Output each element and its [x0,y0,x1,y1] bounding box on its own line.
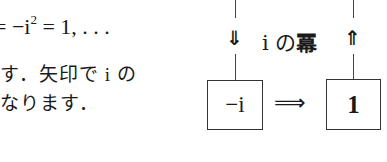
body-text-line-3: なります． [0,88,99,115]
powers-of-i-label: i の冪 [262,26,317,56]
minus-i: −i [12,14,31,39]
equation-line: = −i2 = 1, . . . [0,14,110,40]
box-one: 1 [326,79,381,130]
right-connector-bottom [353,54,354,80]
implies-arrow-icon: ⟹ [274,92,306,114]
label-power: 冪 [296,31,317,55]
left-connector-top [235,0,236,18]
equals-fragment: = [0,14,12,39]
label-no: の [275,31,296,55]
equation-rest: = 1, . . . [37,14,110,39]
box-one-text: 1 [347,91,360,119]
body-text-line-2: す．矢印で i の [0,59,137,86]
box-minus-i-text: −i [225,92,244,118]
down-double-arrow-icon: ⇓ [226,28,243,48]
left-connector-bottom [235,54,236,80]
label-i: i [262,31,275,55]
up-double-arrow-icon: ⇑ [344,28,361,48]
box-minus-i: −i [207,80,263,130]
right-connector-top [353,0,354,18]
